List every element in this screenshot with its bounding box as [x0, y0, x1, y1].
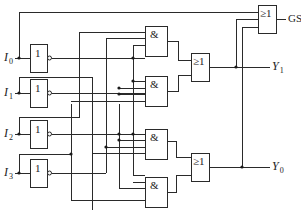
- output-label-y0: Y0: [272, 160, 284, 175]
- input-label-i0: I0: [4, 51, 13, 66]
- and-gate-4-symbol: &: [150, 180, 159, 191]
- input-label-i1: I1: [4, 86, 13, 101]
- not-gate-i3-symbol: 1: [35, 163, 41, 174]
- not-gate-i1-symbol: 1: [35, 83, 41, 94]
- or-gate-y0-symbol: ≥1: [193, 156, 205, 167]
- output-label-y1: Y1: [272, 60, 284, 75]
- not-gate-i0-symbol: 1: [35, 48, 41, 59]
- input-label-i2: I2: [4, 127, 13, 142]
- and-gate-3-symbol: &: [150, 132, 159, 143]
- or-gate-y1-symbol: ≥1: [193, 56, 205, 67]
- output-label-gs: GS: [288, 13, 301, 24]
- input-label-i3: I3: [4, 166, 13, 181]
- logic-diagram: 1 1 1 1 & & & & ≥1 ≥1 ≥1 I0 I1 I2 I3 GS …: [0, 0, 301, 210]
- not-gate-i2-symbol: 1: [35, 124, 41, 135]
- and-gate-2-symbol: &: [150, 79, 159, 90]
- or-gate-gs-symbol: ≥1: [260, 8, 272, 19]
- junction-dots: [17, 56, 243, 174]
- and-gate-1-symbol: &: [150, 29, 159, 40]
